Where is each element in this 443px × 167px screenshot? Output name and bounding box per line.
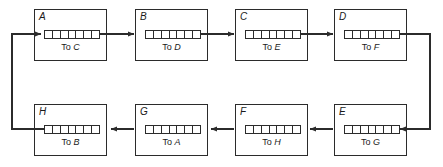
node-box-f[interactable]: F To H <box>235 104 308 156</box>
queue-cell <box>353 31 361 38</box>
queue-cell <box>154 126 162 133</box>
queue-cell <box>270 126 278 133</box>
queue-target-label: To F <box>335 42 406 52</box>
queue-a[interactable] <box>44 30 100 39</box>
queue-cell <box>45 31 53 38</box>
queue-cell <box>262 126 270 133</box>
queue-label-target: A <box>175 137 181 147</box>
queue-cell <box>345 31 353 38</box>
queue-label-target: D <box>174 42 181 52</box>
queue-cell <box>369 126 377 133</box>
queue-label-target: E <box>275 42 281 52</box>
queue-cell <box>293 31 300 38</box>
queue-cell <box>84 126 92 133</box>
node-box-g[interactable]: G To A <box>135 104 208 156</box>
queue-cell <box>254 126 262 133</box>
queue-cell <box>177 126 185 133</box>
queue-cell <box>277 31 285 38</box>
queue-cell <box>193 126 200 133</box>
queue-cell <box>177 31 185 38</box>
queue-label-target: B <box>74 137 80 147</box>
queue-cell <box>285 126 293 133</box>
queue-target-label: To A <box>136 137 207 147</box>
queue-cell <box>361 126 369 133</box>
queue-g[interactable] <box>145 125 201 134</box>
queue-cell <box>162 31 170 38</box>
node-id-label: B <box>140 11 147 22</box>
queue-c[interactable] <box>245 30 301 39</box>
node-id-label: E <box>339 106 346 117</box>
queue-cell <box>185 126 193 133</box>
queue-cell <box>170 31 178 38</box>
node-id-label: G <box>140 106 148 117</box>
queue-f[interactable] <box>245 125 301 134</box>
queue-cell <box>45 126 53 133</box>
queue-cell <box>293 126 300 133</box>
queue-cell <box>61 126 69 133</box>
diagram-canvas: A To C B To D <box>0 0 443 167</box>
node-box-a[interactable]: A To C <box>34 9 107 61</box>
queue-cell <box>61 31 69 38</box>
queue-cell <box>277 126 285 133</box>
queue-target-label: To H <box>236 137 307 147</box>
queue-cell <box>353 126 361 133</box>
queue-cell <box>53 126 61 133</box>
node-box-b[interactable]: B To D <box>135 9 208 61</box>
queue-label-prefix: To <box>61 42 71 52</box>
queue-label-prefix: To <box>262 42 272 52</box>
queue-label-target: C <box>73 42 80 52</box>
queue-label-prefix: To <box>61 137 71 147</box>
queue-e[interactable] <box>344 125 400 134</box>
queue-cell <box>69 31 77 38</box>
node-id-label: C <box>240 11 247 22</box>
node-id-label: A <box>39 11 46 22</box>
queue-cell <box>170 126 178 133</box>
queue-label-prefix: To <box>162 42 172 52</box>
queue-cell <box>146 126 154 133</box>
queue-cell <box>76 126 84 133</box>
queue-cell <box>69 126 77 133</box>
queue-label-target: H <box>274 137 281 147</box>
queue-cell <box>254 31 262 38</box>
queue-label-prefix: To <box>362 42 372 52</box>
queue-cell <box>384 126 392 133</box>
queue-label-target: F <box>374 42 380 52</box>
node-box-e[interactable]: E To G <box>334 104 407 156</box>
queue-cell <box>246 31 254 38</box>
queue-cell <box>285 31 293 38</box>
queue-cell <box>92 126 99 133</box>
queue-cell <box>84 31 92 38</box>
queue-cell <box>154 31 162 38</box>
queue-cell <box>92 31 99 38</box>
node-id-label: F <box>240 106 246 117</box>
queue-label-prefix: To <box>162 137 172 147</box>
queue-cell <box>53 31 61 38</box>
queue-target-label: To D <box>136 42 207 52</box>
queue-cell <box>392 31 399 38</box>
queue-label-prefix: To <box>361 137 371 147</box>
queue-label-target: G <box>373 137 380 147</box>
queue-target-label: To G <box>335 137 406 147</box>
queue-cell <box>361 31 369 38</box>
queue-d[interactable] <box>344 30 400 39</box>
node-id-label: D <box>339 11 346 22</box>
queue-cell <box>246 126 254 133</box>
queue-cell <box>185 31 193 38</box>
queue-cell <box>193 31 200 38</box>
queue-target-label: To B <box>35 137 106 147</box>
queue-cell <box>369 31 377 38</box>
queue-cell <box>345 126 353 133</box>
node-box-d[interactable]: D To F <box>334 9 407 61</box>
queue-cell <box>162 126 170 133</box>
queue-target-label: To E <box>236 42 307 52</box>
queue-cell <box>146 31 154 38</box>
queue-label-prefix: To <box>262 137 272 147</box>
queue-h[interactable] <box>44 125 100 134</box>
queue-cell <box>376 31 384 38</box>
queue-cell <box>384 31 392 38</box>
queue-cell <box>262 31 270 38</box>
queue-b[interactable] <box>145 30 201 39</box>
node-id-label: H <box>39 106 46 117</box>
node-box-h[interactable]: H To B <box>34 104 107 156</box>
node-box-c[interactable]: C To E <box>235 9 308 61</box>
